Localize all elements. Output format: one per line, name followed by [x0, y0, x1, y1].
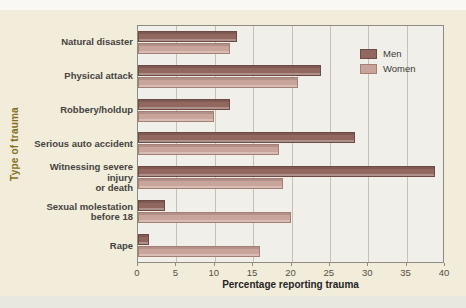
category-row-rape	[138, 232, 443, 258]
x-tick-mark-25	[329, 263, 330, 266]
x-tick-mark-35	[406, 263, 407, 266]
category-label-robbery-holdup: Robbery/holdup	[30, 95, 133, 125]
x-tick-label-30: 30	[362, 267, 373, 278]
bar-men-physical-attack	[138, 65, 321, 76]
bar-men-rape	[138, 234, 149, 245]
x-tick-label-20: 20	[285, 267, 296, 278]
x-tick-mark-30	[367, 263, 368, 266]
legend: MenWomen	[360, 48, 416, 74]
x-tick-mark-10	[214, 263, 215, 266]
category-label-serious-auto-accident: Serious auto accident	[30, 129, 133, 159]
bar-men-witnessing-severe-injury-or-death	[138, 166, 435, 177]
category-label-witnessing-severe-injury-or-death: Witnessing severe injury or death	[30, 163, 133, 193]
category-row-robbery-holdup	[138, 97, 443, 123]
category-row-witnessing-severe-injury-or-death	[138, 165, 443, 191]
legend-swatch-women	[360, 64, 377, 74]
bar-women-robbery-holdup	[138, 111, 214, 122]
x-axis-title: Percentage reporting trauma	[137, 279, 444, 290]
category-label-natural-disaster: Natural disaster	[30, 27, 133, 57]
x-tick-label-25: 25	[324, 267, 335, 278]
bar-men-natural-disaster	[138, 31, 237, 42]
x-tick-mark-40	[444, 263, 445, 266]
bar-women-witnessing-severe-injury-or-death	[138, 178, 283, 189]
bar-women-natural-disaster	[138, 43, 230, 54]
x-tick-label-40: 40	[439, 267, 450, 278]
x-tick-mark-5	[175, 263, 176, 266]
category-row-sexual-molestation-before-18	[138, 198, 443, 224]
x-tick-mark-15	[252, 263, 253, 266]
legend-label-women: Women	[383, 63, 416, 74]
bar-women-physical-attack	[138, 77, 298, 88]
legend-item-women: Women	[360, 63, 416, 74]
bar-men-sexual-molestation-before-18	[138, 200, 165, 211]
bar-women-sexual-molestation-before-18	[138, 212, 291, 223]
scanned-figure: Type of trauma Natural disasterPhysical …	[0, 0, 466, 308]
category-row-serious-auto-accident	[138, 131, 443, 157]
page-edge-strip	[0, 296, 466, 308]
category-label-sexual-molestation-before-18: Sexual molestation before 18	[30, 197, 133, 227]
x-tick-label-5: 5	[173, 267, 178, 278]
legend-swatch-men	[360, 49, 377, 59]
x-axis-ticks: 0510152025303540	[137, 266, 444, 278]
x-tick-mark-20	[291, 263, 292, 266]
plot-area: MenWomen	[137, 25, 444, 263]
legend-label-men: Men	[383, 48, 401, 59]
x-tick-label-0: 0	[134, 267, 139, 278]
x-tick-label-15: 15	[247, 267, 258, 278]
x-tick-label-10: 10	[208, 267, 219, 278]
category-axis-labels: Natural disasterPhysical attackRobbery/h…	[30, 25, 133, 263]
x-tick-label-35: 35	[400, 267, 411, 278]
bar-men-robbery-holdup	[138, 99, 230, 110]
bar-women-rape	[138, 246, 260, 257]
bar-women-serious-auto-accident	[138, 144, 279, 155]
legend-item-men: Men	[360, 48, 416, 59]
category-label-rape: Rape	[30, 231, 133, 261]
category-label-physical-attack: Physical attack	[30, 61, 133, 91]
y-axis-title: Type of trauma	[9, 107, 20, 181]
bar-men-serious-auto-accident	[138, 132, 355, 143]
x-tick-mark-0	[137, 263, 138, 266]
